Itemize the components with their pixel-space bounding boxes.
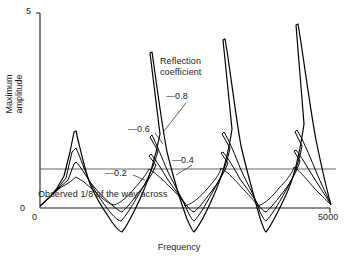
figure-container: Maximum amplitude Frequency 5 0 0 5000 R… bbox=[0, 0, 358, 262]
leader-line-04 bbox=[176, 165, 192, 175]
legend-title-line-1: Reflection bbox=[160, 56, 201, 66]
curve-coefficient-06 bbox=[40, 130, 331, 221]
y-axis-tick-label-max: 5 bbox=[26, 6, 31, 16]
x-axis-tick-label-max: 5000 bbox=[318, 212, 338, 222]
annotation-leaders bbox=[133, 103, 192, 180]
legend-title: Reflection coefficient bbox=[160, 56, 201, 78]
legend-title-line-2: coefficient bbox=[160, 67, 201, 77]
chart-plot-area bbox=[0, 0, 358, 262]
x-axis-tick-label-zero: 0 bbox=[32, 212, 37, 222]
curve-label-04: —0.4 bbox=[172, 155, 194, 165]
y-axis-tick-label-zero: 0 bbox=[20, 203, 25, 213]
observation-note: Observed 1/8 of the way across bbox=[38, 189, 168, 199]
axis-lines bbox=[36, 13, 330, 213]
curve-label-08: —0.8 bbox=[166, 91, 188, 101]
leader-line-06 bbox=[155, 133, 163, 144]
x-axis-title: Frequency bbox=[0, 242, 358, 252]
curve-label-02: —0.2 bbox=[105, 168, 127, 178]
leader-line-08 bbox=[164, 103, 186, 131]
curve-label-06: —0.6 bbox=[128, 124, 150, 134]
y-axis-title: Maximum amplitude bbox=[4, 59, 24, 129]
